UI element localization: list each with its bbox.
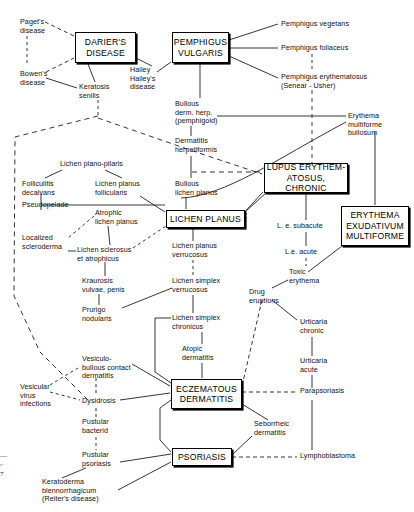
label-lichen-planus-follicularis: Lichen planus follicularis xyxy=(95,180,140,197)
label-lichen-simplex-verrucosus: Lichen simplex verrucosus xyxy=(172,277,220,294)
edge-bowens-darier xyxy=(46,58,74,72)
label-keratoderma-blennorrhagicum: Keratoderma blennorrhagicum (Reiter's di… xyxy=(42,478,99,504)
edge-eczema-psoriasis-bracket xyxy=(160,400,171,452)
edge-seborrheic-psoriasis xyxy=(232,436,252,455)
edge-toxic-drug xyxy=(272,280,288,288)
label-vesiculobullous-contact-dermatitis: Vesiculo- bullous contact dermatitis xyxy=(82,355,131,381)
edge-lpp-lichenfoll xyxy=(105,170,122,178)
label-dermatitis-herpetiformis: Dermatitis herpetiformis xyxy=(175,137,217,154)
edge-lpp-folliculitis xyxy=(45,170,62,178)
box-erythema-exudativum-multiforme[interactable]: ERYTHEMA EXUDATIVUM MULTIFORME xyxy=(341,206,409,246)
label-kraurosis-vulvae-penis: Kraurosis vulvae, penis xyxy=(82,277,125,294)
box-darier-disease[interactable]: DARIER'S DISEASE xyxy=(75,32,136,63)
label-bowens-disease: Bowen's disease xyxy=(20,70,47,87)
label-urticaria-chronic: Urticaria chronic xyxy=(300,318,327,335)
label-seborrheic-dermatitis: Seborrheic dermatitis xyxy=(254,420,289,437)
label-urticaria-acute: Urticaria acute xyxy=(300,357,327,374)
label-toxic-erythema: Toxic erythema xyxy=(289,268,319,285)
edge-pv-erythem xyxy=(229,56,278,78)
label-lichen-plano-pilaris: Lichen plano-pilaris xyxy=(60,160,123,169)
label-pemphigus-vegetans: Pemphigus vegetans xyxy=(281,20,349,29)
label-localized-scleroderma: Localized scleroderma xyxy=(22,234,62,251)
edge-atrophic-lichenscl xyxy=(108,226,110,245)
edge-pv-vegetans xyxy=(229,24,278,40)
label-le-acute: L.e. acute xyxy=(285,248,317,257)
edge-bracket-simpc-eczema xyxy=(155,318,171,383)
label-lichen-simplex-chronicus: Lichen simplex chronicus xyxy=(172,314,220,331)
label-lichen-sclerosus-et-atrophicus: Lichen sclerosus et atrophicus xyxy=(77,246,131,263)
label-lichen-planus-verrucosus: Lichen planus verrucosus xyxy=(172,242,217,259)
label-le-subacute: L. e. subacute xyxy=(277,222,323,231)
box-lupus-erythematosus-chronic[interactable]: LUPUS ERYTHEM- ATOSUS, CHRONIC xyxy=(264,163,348,193)
label-pustular-bacterid: Pustular bacterid xyxy=(82,418,109,435)
box-pemphigus-vulgaris[interactable]: PEMPHIGUS VULGARIS xyxy=(172,32,229,63)
box-psoriasis[interactable]: PSORIASIS xyxy=(172,448,232,466)
edge-prurigo-lichensimpv xyxy=(122,288,172,308)
edge-atrophic-localized xyxy=(68,216,94,238)
label-dysidrosis: Dysidrosis xyxy=(82,397,116,406)
label-hailey-hailey-disease: Hailey Hailey's disease xyxy=(130,66,155,92)
caption-fragment: — ⌐ 7 xyxy=(0,452,14,479)
label-prurigo-nodularis: Prurigo nodularis xyxy=(82,306,112,323)
box-eczematous-dermatitis[interactable]: ECZEMATOUS DERMATITIS xyxy=(171,379,242,409)
label-bullous-lichen-planus: Bullous lichen planus xyxy=(175,180,218,197)
label-atopic-dermatitis: Atopic dermatitis xyxy=(182,345,214,362)
edge-vesicvirus-dysidrosis xyxy=(50,392,80,400)
edge-lichenfoll-box xyxy=(140,196,165,212)
edge-eczema-seborrheic xyxy=(242,404,268,420)
label-lymphoblastoma: Lymphoblastoma xyxy=(300,452,355,461)
edge-lichenscl-box xyxy=(133,226,166,248)
edge-vbcd-eczema xyxy=(132,364,170,386)
label-pagets-disease: Paget's disease xyxy=(20,18,45,35)
label-bullous-derm-herp: Bullous derm. herp. (pemphigoid) xyxy=(175,100,218,126)
label-pustular-psoriasis: Pustular psoriasis xyxy=(82,451,111,468)
label-atrophic-lichen-planus: Atrophic lichen planus xyxy=(95,209,138,226)
label-parapsoriasis: Parapsoriasis xyxy=(300,387,344,396)
edge-bowens-keratosis xyxy=(46,78,77,88)
label-drug-eruptions: Drug eruptions xyxy=(249,288,279,305)
edge-dysidrosis-eczema xyxy=(120,393,170,400)
edge-keratoderma-psoriasis xyxy=(118,462,171,490)
label-pemphigus-foliaceus: Pemphigus foliaceus xyxy=(281,44,348,53)
edge-keratosis-darier xyxy=(88,64,95,82)
label-pseudopelade: Pseudopelade xyxy=(22,201,69,210)
diagram-canvas: DARIER'S DISEASE PEMPHIGUS VULGARIS LUPU… xyxy=(0,0,414,512)
edge-hailey-pemphigus xyxy=(157,62,171,72)
edge-lichenbox-lupus-a xyxy=(245,193,266,212)
edge-drug-eczema xyxy=(243,300,262,382)
edge-pagets-darier xyxy=(45,22,74,36)
edge-pustpso-psoriasis xyxy=(120,454,171,462)
box-lichen-planus[interactable]: LICHEN PLANUS xyxy=(166,210,245,228)
label-keratosis-senilis: Keratosis senilis xyxy=(79,83,109,100)
edge-vesicvirus-vbcd xyxy=(50,368,78,385)
label-vesicular-virus-infections: Vesicular virus infections xyxy=(20,383,51,409)
label-folliculitis-decalvans: Folliculitis decalvans xyxy=(22,180,55,197)
label-pemphigus-erythematosus: Pemphigus erythematosus (Senear - Usher) xyxy=(281,73,367,90)
label-erythema-multiforme-bullosum: Erythema multiforme bullosum xyxy=(348,112,382,138)
